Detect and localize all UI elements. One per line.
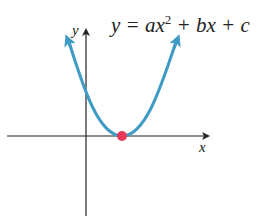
y-axis-label: y bbox=[70, 22, 79, 38]
vertex-point bbox=[117, 131, 127, 141]
parabola-curve bbox=[69, 42, 176, 136]
parabola-diagram: y x y = ax2 + bx + c bbox=[0, 0, 261, 216]
x-axis-label: x bbox=[198, 139, 206, 155]
equation: y = ax2 + bx + c bbox=[109, 12, 250, 37]
